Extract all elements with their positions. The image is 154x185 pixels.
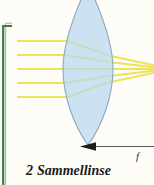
caption-title: Sammellinse [37, 163, 111, 178]
caption-number: 2 [26, 163, 33, 178]
focal-length-label: f [136, 150, 139, 162]
optics-figure: f 2Sammellinse [0, 0, 154, 185]
figure-caption: 2Sammellinse [26, 162, 111, 178]
lens-ray-diagram-svg [0, 0, 154, 185]
